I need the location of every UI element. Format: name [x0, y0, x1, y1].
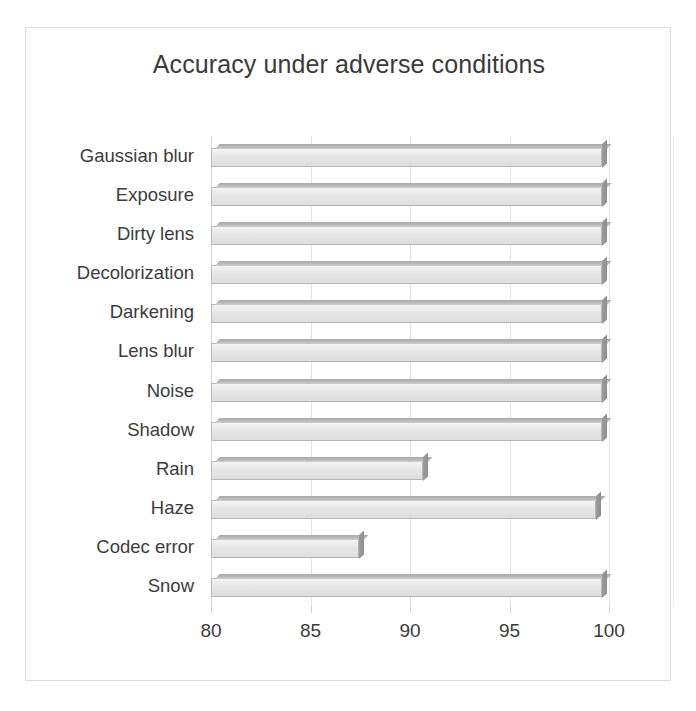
bar-top-face [215, 183, 612, 188]
category-label: Gaussian blur [80, 146, 194, 165]
bar-top-face [215, 339, 612, 344]
bar-top-face [215, 379, 612, 384]
bar-top-face [215, 222, 612, 227]
bar-top-face [215, 574, 612, 579]
category-label: Dirty lens [117, 225, 194, 244]
bar-face [211, 265, 602, 284]
chart-frame: Accuracy under adverse conditions Gaussi… [25, 27, 671, 681]
bar[interactable] [211, 261, 607, 285]
bar[interactable] [211, 222, 607, 246]
bar[interactable] [211, 496, 601, 520]
bar-side-face [602, 139, 607, 168]
bar-side-face [602, 257, 607, 286]
chart-title: Accuracy under adverse conditions [26, 50, 672, 79]
category-label: Noise [147, 381, 194, 400]
category-label: Codec error [96, 538, 194, 557]
bar-face [211, 461, 423, 480]
bar[interactable] [211, 300, 607, 324]
tick-mark-100 [609, 606, 610, 613]
x-tick-label-85: 85 [300, 621, 321, 640]
bar-face [211, 187, 602, 206]
bar-side-face [602, 178, 607, 207]
bar-side-face [602, 570, 607, 599]
bar[interactable] [211, 144, 607, 168]
category-label: Shadow [127, 420, 194, 439]
bar-face [211, 343, 602, 362]
tick-mark-90 [410, 606, 411, 613]
bar[interactable] [211, 574, 607, 598]
bar-side-face [602, 335, 607, 364]
category-label: Darkening [110, 303, 194, 322]
category-label: Decolorization [77, 264, 194, 283]
plot-area: Gaussian blurExposureDirty lensDecoloriz… [211, 136, 609, 606]
category-label: Exposure [116, 185, 194, 204]
bar-face [211, 539, 359, 558]
bar-side-face [602, 296, 607, 325]
plot-right-border [673, 136, 674, 606]
bar-face [211, 578, 602, 597]
bar-face [211, 304, 602, 323]
bar-side-face [423, 452, 428, 481]
bar[interactable] [211, 183, 607, 207]
bar[interactable] [211, 535, 364, 559]
x-tick-label-80: 80 [200, 621, 221, 640]
bar[interactable] [211, 457, 428, 481]
category-label: Lens blur [118, 342, 194, 361]
gridline-100 [609, 136, 610, 606]
tick-mark-85 [311, 606, 312, 613]
bar[interactable] [211, 339, 607, 363]
bar-top-face [215, 496, 606, 501]
bar-side-face [602, 374, 607, 403]
bar-side-face [602, 217, 607, 246]
bar-top-face [215, 300, 612, 305]
bar-face [211, 148, 602, 167]
category-label: Snow [148, 577, 194, 596]
bar-face [211, 422, 602, 441]
bar-top-face [215, 535, 369, 540]
bar-top-face [215, 144, 612, 149]
bar-top-face [215, 457, 432, 462]
tick-mark-95 [510, 606, 511, 613]
bar-face [211, 226, 602, 245]
bar[interactable] [211, 379, 607, 403]
x-tick-label-100: 100 [593, 621, 625, 640]
bar[interactable] [211, 418, 607, 442]
bar-face [211, 500, 596, 519]
bar-side-face [359, 531, 364, 560]
x-tick-label-95: 95 [499, 621, 520, 640]
category-label: Haze [151, 499, 194, 518]
bar-top-face [215, 418, 612, 423]
bar-side-face [602, 413, 607, 442]
bar-side-face [596, 492, 601, 521]
x-tick-label-90: 90 [399, 621, 420, 640]
tick-mark-80 [211, 606, 212, 613]
bar-face [211, 383, 602, 402]
category-label: Rain [156, 460, 194, 479]
bar-top-face [215, 261, 612, 266]
